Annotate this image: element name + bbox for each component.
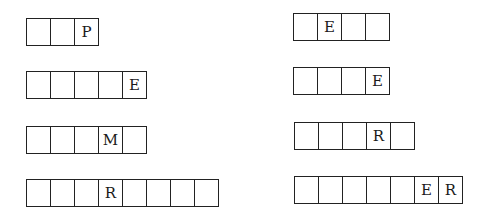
word-left-2: E xyxy=(26,71,147,99)
blank-cell[interactable] xyxy=(390,176,415,204)
blank-cell[interactable] xyxy=(194,179,219,207)
blank-cell[interactable] xyxy=(146,179,171,207)
blank-cell[interactable] xyxy=(122,126,147,154)
blank-cell[interactable] xyxy=(294,176,319,204)
word-right-2: E xyxy=(293,67,390,95)
letter-cell: M xyxy=(98,126,123,154)
blank-cell[interactable] xyxy=(26,179,51,207)
blank-cell[interactable] xyxy=(365,13,390,41)
word-right-3: R xyxy=(294,122,415,150)
blank-cell[interactable] xyxy=(293,13,318,41)
blank-cell[interactable] xyxy=(342,122,367,150)
word-left-4: R xyxy=(26,179,219,207)
blank-cell[interactable] xyxy=(318,176,343,204)
blank-cell[interactable] xyxy=(26,126,51,154)
blank-cell[interactable] xyxy=(342,176,367,204)
letter-cell: E xyxy=(122,71,147,99)
letter-cell: E xyxy=(365,67,390,95)
word-left-3: M xyxy=(26,126,147,154)
word-right-1: E xyxy=(293,13,390,41)
blank-cell[interactable] xyxy=(294,122,319,150)
word-right-4: ER xyxy=(294,176,463,204)
letter-cell: P xyxy=(74,18,99,46)
blank-cell[interactable] xyxy=(74,179,99,207)
blank-cell[interactable] xyxy=(293,67,318,95)
blank-cell[interactable] xyxy=(74,71,99,99)
blank-cell[interactable] xyxy=(366,176,391,204)
word-left-1: P xyxy=(26,18,99,46)
blank-cell[interactable] xyxy=(318,122,343,150)
letter-cell: R xyxy=(438,176,463,204)
blank-cell[interactable] xyxy=(50,179,75,207)
blank-cell[interactable] xyxy=(122,179,147,207)
letter-cell: R xyxy=(98,179,123,207)
blank-cell[interactable] xyxy=(50,71,75,99)
blank-cell[interactable] xyxy=(50,18,75,46)
blank-cell[interactable] xyxy=(170,179,195,207)
blank-cell[interactable] xyxy=(317,67,342,95)
blank-cell[interactable] xyxy=(26,71,51,99)
blank-cell[interactable] xyxy=(74,126,99,154)
blank-cell[interactable] xyxy=(341,67,366,95)
blank-cell[interactable] xyxy=(390,122,415,150)
blank-cell[interactable] xyxy=(50,126,75,154)
blank-cell[interactable] xyxy=(341,13,366,41)
letter-cell: E xyxy=(414,176,439,204)
letter-cell: R xyxy=(366,122,391,150)
blank-cell[interactable] xyxy=(98,71,123,99)
blank-cell[interactable] xyxy=(26,18,51,46)
letter-cell: E xyxy=(317,13,342,41)
